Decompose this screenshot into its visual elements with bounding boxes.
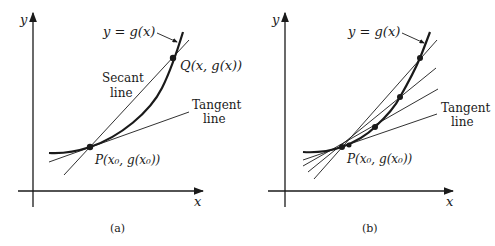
y-axis-label: y — [19, 12, 28, 27]
point-p — [339, 144, 345, 150]
point-q2 — [397, 94, 403, 100]
curve-label: y = g(x) — [347, 24, 400, 39]
curve-g — [303, 32, 430, 152]
curve-label-arrow — [157, 33, 177, 42]
curve-label-arrow — [402, 33, 424, 43]
tangent-label-line2: line — [203, 112, 226, 126]
panel-b: y x y = g(x) Tangent line P(x₀, g(x₀)) (… — [268, 12, 490, 235]
tangent-label-line2: line — [451, 115, 474, 129]
panel-a: y x y = g(x) Q(x, g(x)) Secant line Tang… — [18, 12, 242, 235]
point-p — [87, 144, 93, 150]
caption-a: (a) — [110, 222, 125, 235]
point-q-label: Q(x, g(x)) — [180, 58, 242, 73]
x-axis-label: x — [446, 194, 454, 209]
point-p-label: P(x₀, g(x₀)) — [346, 152, 413, 166]
x-axis-label: x — [194, 194, 202, 209]
point-q — [170, 55, 176, 61]
point-q3 — [372, 124, 378, 130]
tangent-label: Tangent — [192, 98, 241, 112]
tangent-label: Tangent — [441, 101, 490, 115]
secant-label-line2: line — [110, 86, 133, 100]
curve-label: y = g(x) — [102, 24, 155, 39]
point-q1 — [417, 55, 423, 61]
point-p-label: P(x₀, g(x₀)) — [94, 153, 161, 167]
caption-b: (b) — [362, 222, 378, 235]
y-axis-label: y — [271, 12, 280, 27]
point-near-p — [347, 143, 352, 148]
secant-tangent-figure: y x y = g(x) Q(x, g(x)) Secant line Tang… — [0, 0, 495, 246]
secant-label: Secant — [102, 71, 144, 85]
